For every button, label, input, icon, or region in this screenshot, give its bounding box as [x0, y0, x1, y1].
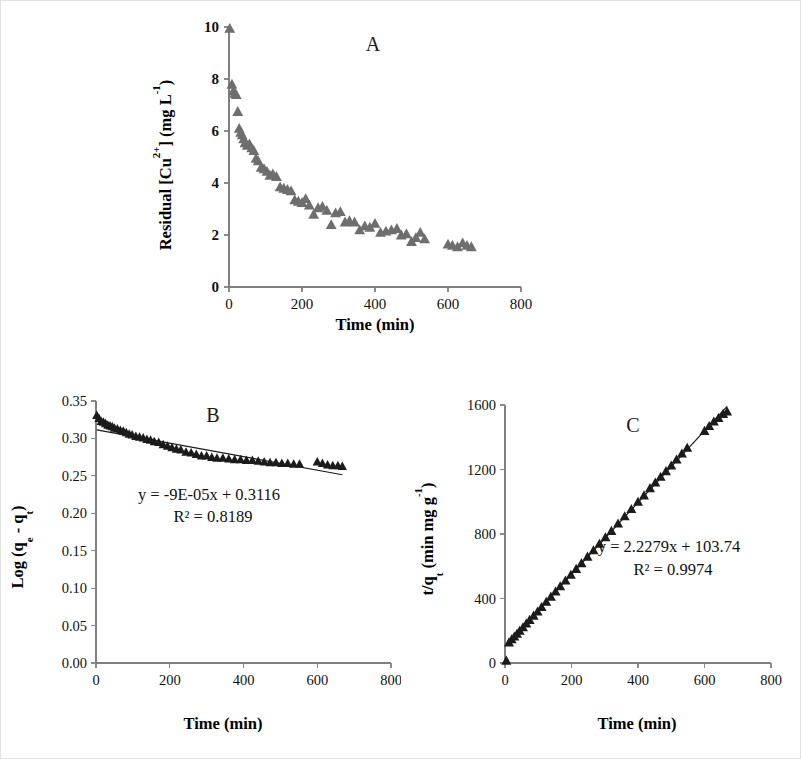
panel-b-y-axis-title: Log (qe - qt) [8, 505, 35, 588]
panel-b-x-axis-title: Time (min) [184, 714, 263, 733]
x-tick-label: 400 [233, 672, 255, 688]
x-tick-label: 800 [510, 296, 533, 312]
y-tick-label: 1600 [467, 397, 496, 413]
panel-b-letter: B [206, 404, 219, 426]
y-tick-label: 0.00 [62, 655, 87, 671]
y-title-mid: (min mg g [418, 496, 437, 572]
y-tick-label: 1200 [467, 462, 496, 478]
panel-c-x-axis-title: Time (min) [598, 714, 677, 733]
data-point-marker [227, 79, 238, 89]
y-tick-label: 6 [212, 123, 220, 139]
panel-c-letter: C [626, 414, 639, 436]
panel-a-residual-copper: Residual [Cu2+] (mg L-1) 0246810 0200400… [151, 5, 571, 345]
y-title-suffix: ) [156, 80, 175, 86]
x-tick-label: 200 [291, 296, 314, 312]
x-tick-label: 600 [694, 672, 716, 688]
y-tick-label: 0.05 [62, 618, 87, 634]
panel-b-plot: Log (qe - qt) 0.000.050.100.150.200.250.… [1, 387, 401, 759]
x-tick-label: 0 [92, 672, 99, 688]
panel-a-data-points [224, 23, 476, 251]
x-tick-label: 800 [760, 672, 782, 688]
x-tick-label: 0 [225, 296, 233, 312]
data-point-marker [232, 106, 243, 116]
y-tick-label: 400 [474, 591, 496, 607]
panel-a-plot: Residual [Cu2+] (mg L-1) 0246810 0200400… [151, 5, 571, 345]
x-tick-label: 600 [437, 296, 460, 312]
panel-a-y-ticks: 0246810 [204, 19, 229, 295]
y-title-sup-exp: -1 [151, 85, 162, 94]
panel-b-pseudo-first-order: Log (qe - qt) 0.000.050.100.150.200.250.… [1, 387, 401, 759]
panel-c-y-axis-title: t/qt (min mg g-1) [412, 482, 445, 595]
panel-c-plot: t/qt (min mg g-1) 040080012001600 020040… [411, 387, 801, 759]
panel-c-x-ticks: 0200400600800 [501, 663, 782, 688]
panel-c-equation: y = 2.2279x + 103.74 [598, 537, 740, 556]
x-tick-label: 0 [501, 672, 508, 688]
y-title-suffix: ) [418, 482, 437, 488]
x-tick-label: 400 [364, 296, 387, 312]
data-point-marker [295, 459, 304, 467]
panel-c-pseudo-second-order: t/qt (min mg g-1) 040080012001600 020040… [411, 387, 801, 759]
figure-container: Residual [Cu2+] (mg L-1) 0246810 0200400… [0, 0, 801, 759]
y-title-prefix: t/q [418, 575, 437, 595]
y-tick-label: 0.30 [62, 430, 87, 446]
panel-a-x-ticks: 0200400600800 [225, 287, 532, 312]
panel-a-letter: A [366, 33, 381, 55]
data-point-marker [370, 218, 381, 228]
y-tick-label: 0.20 [62, 505, 87, 521]
x-tick-label: 600 [306, 672, 328, 688]
y-tick-label: 0 [212, 279, 220, 295]
y-tick-label: 0.35 [62, 393, 87, 409]
y-tick-label: 0.25 [62, 468, 87, 484]
x-tick-label: 800 [380, 672, 401, 688]
y-title-sup-exp: -1 [412, 488, 424, 497]
x-tick-label: 200 [159, 672, 181, 688]
panel-c-y-ticks: 040080012001600 [467, 397, 505, 671]
y-tick-label: 0.15 [62, 543, 87, 559]
panel-b-r-squared: R² = 0.8189 [174, 507, 253, 526]
y-tick-label: 2 [212, 227, 220, 243]
data-point-marker [224, 23, 235, 33]
y-tick-label: 0.10 [62, 580, 87, 596]
y-tick-label: 800 [474, 526, 496, 542]
x-tick-label: 200 [561, 672, 583, 688]
panel-b-equation: y = -9E-05x + 0.3116 [138, 485, 280, 504]
y-tick-label: 10 [204, 19, 219, 35]
y-title-suffix: ) [8, 505, 27, 511]
panel-b-y-ticks: 0.000.050.100.150.200.250.300.35 [62, 393, 96, 671]
y-tick-label: 8 [212, 71, 220, 87]
y-title-prefix: Residual [Cu [156, 158, 175, 250]
panel-a-x-axis-title: Time (min) [336, 315, 415, 334]
y-tick-label: 4 [212, 175, 220, 191]
panel-a-y-axis-title: Residual [Cu2+] (mg L-1) [151, 80, 175, 251]
panel-b-x-ticks: 0200400600800 [92, 663, 401, 688]
y-title-mid: - q [8, 514, 27, 538]
panel-c-r-squared: R² = 0.9974 [634, 560, 713, 579]
y-title-mid: ] (mg L [156, 94, 175, 146]
data-point-marker [682, 443, 692, 452]
panel-c-data-points [501, 406, 732, 664]
y-title-sup-charge: 2+ [151, 147, 162, 159]
y-tick-label: 0 [489, 655, 496, 671]
x-tick-label: 400 [627, 672, 649, 688]
data-point-marker [501, 656, 511, 665]
y-title-prefix: Log (q [8, 541, 27, 588]
data-point-marker [326, 219, 337, 229]
